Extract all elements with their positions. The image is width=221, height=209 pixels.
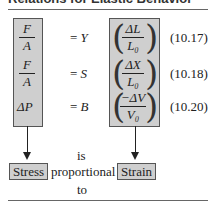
row1-lhs: FA [19, 22, 35, 53]
top-rule [8, 9, 208, 10]
left-arrow-shaft [27, 126, 28, 153]
stress-box: Stress [9, 163, 48, 180]
row2-rhs: ΔXL₀ [122, 58, 144, 89]
row1-rhs: ΔLL₀ [122, 22, 144, 53]
row2-equals: = S [70, 66, 87, 82]
row1-right-paren: ) [145, 20, 158, 54]
right-arrow-shaft [135, 126, 136, 153]
row3-equals: = B [70, 99, 89, 115]
proportional-label: proportional [51, 164, 115, 180]
right-arrow-head [131, 152, 139, 160]
equation-number: (10.17) [170, 30, 208, 46]
row3-right-paren: ) [145, 89, 158, 123]
equation-number: (10.18) [170, 66, 208, 82]
row1-equals: = Y [70, 30, 88, 46]
section-title: Relations for Elastic Behavior [8, 0, 192, 6]
bottom-rule [8, 200, 208, 201]
row2-right-paren: ) [145, 56, 158, 90]
is-label: is [77, 148, 86, 164]
left-arrow-head [23, 152, 31, 160]
equation-number: (10.20) [170, 99, 208, 115]
to-label: to [77, 182, 87, 198]
strain-box: Strain [117, 163, 156, 180]
row2-lhs: FA [19, 58, 35, 89]
row3-rhs: −ΔVV₀ [120, 91, 146, 122]
row3-lhs: ΔP [17, 99, 33, 115]
